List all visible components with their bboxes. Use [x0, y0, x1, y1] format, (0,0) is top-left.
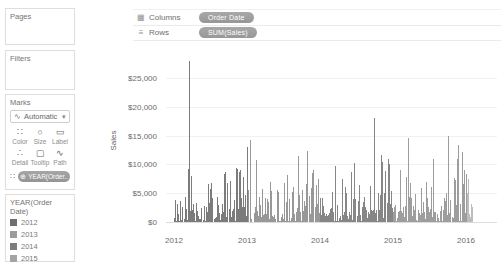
- columns-shelf-label: Columns: [149, 13, 193, 22]
- legend-swatch-2012: [10, 219, 17, 226]
- tableau-worksheet: Pages Filters Marks ∿ Automatic ▾ ∷ Colo…: [0, 0, 501, 267]
- rows-shelf-label: Rows: [149, 28, 193, 37]
- marks-card: Marks ∿ Automatic ▾ ∷ Color ○ Size ▭ Lab…: [5, 94, 75, 190]
- detail-button[interactable]: ∴ Detail: [10, 148, 30, 166]
- y-tick-0: $0: [113, 218, 157, 227]
- x-tick-2016: 2016: [452, 236, 480, 245]
- y-tick-5000: $5,000: [113, 189, 157, 198]
- rows-shelf[interactable]: ≡ Rows SUM(Sales): [133, 25, 501, 41]
- legend-item-2012[interactable]: 2012: [10, 217, 70, 228]
- columns-icon: ▦: [136, 13, 146, 22]
- filters-shelf-title: Filters: [10, 54, 70, 63]
- plus-circle-icon: ⊕: [20, 173, 26, 181]
- legend-item-2013[interactable]: 2013: [10, 229, 70, 240]
- size-button[interactable]: ○ Size: [30, 127, 50, 145]
- marks-card-title: Marks: [10, 98, 70, 107]
- x-tick-2014: 2014: [306, 236, 334, 245]
- tooltip-button[interactable]: ▢ Tooltip: [30, 148, 50, 166]
- sum-sales-pill[interactable]: SUM(Sales): [199, 27, 257, 38]
- year-order-date-pill-label: YEAR(Order..: [28, 173, 68, 180]
- color-target-icon: ∷: [10, 172, 15, 181]
- label-button-label: Label: [50, 138, 70, 145]
- tooltip-icon: ▢: [30, 148, 50, 158]
- marks-button-grid: ∷ Color ○ Size ▭ Label ∴ Detail ▢ Toolti…: [10, 127, 70, 166]
- marks-color-shelf: ∷ ⊕ YEAR(Order..: [10, 171, 70, 182]
- x-tick-2013: 2013: [233, 236, 261, 245]
- legend-swatch-2013: [10, 231, 17, 238]
- legend-label-2013: 2013: [21, 230, 38, 239]
- year-order-date-pill[interactable]: ⊕ YEAR(Order..: [18, 171, 70, 182]
- y-tick-20000: $20,000: [113, 103, 157, 112]
- sales-bar-chart[interactable]: [166, 52, 501, 226]
- pages-shelf[interactable]: Pages: [5, 8, 75, 45]
- x-tick-2012: 2012: [160, 236, 188, 245]
- color-legend-card: YEAR(Order Date) 2012 2013 2014 2015: [5, 194, 75, 262]
- columns-shelf[interactable]: ▦ Columns Order Date: [133, 9, 501, 26]
- legend-swatch-2014: [10, 243, 17, 250]
- color-button[interactable]: ∷ Color: [10, 127, 30, 145]
- rows-icon: ≡: [136, 28, 146, 37]
- legend-label-2014: 2014: [21, 242, 38, 251]
- chevron-down-icon: ▾: [62, 113, 66, 121]
- detail-icon: ∴: [10, 148, 30, 158]
- size-icon: ○: [30, 127, 50, 137]
- line-chart-icon: ∿: [14, 112, 21, 121]
- pages-shelf-title: Pages: [10, 12, 70, 21]
- legend-item-2014[interactable]: 2014: [10, 241, 70, 252]
- legend-item-2015[interactable]: 2015: [10, 253, 70, 264]
- path-button[interactable]: ∿ Path: [50, 148, 70, 166]
- label-button[interactable]: ▭ Label: [50, 127, 70, 145]
- y-tick-25000: $25,000: [113, 74, 157, 83]
- mark-type-dropdown[interactable]: ∿ Automatic ▾: [10, 110, 70, 123]
- y-tick-10000: $10,000: [113, 160, 157, 169]
- x-tick-2015: 2015: [379, 236, 407, 245]
- path-icon: ∿: [50, 148, 70, 158]
- detail-button-label: Detail: [10, 159, 30, 166]
- path-button-label: Path: [50, 159, 70, 166]
- color-button-label: Color: [10, 138, 30, 145]
- legend-title: YEAR(Order Date): [10, 198, 70, 216]
- legend-label-2012: 2012: [21, 218, 38, 227]
- filters-shelf[interactable]: Filters: [5, 50, 75, 90]
- size-button-label: Size: [30, 138, 50, 145]
- tooltip-button-label: Tooltip: [30, 159, 50, 166]
- mark-type-value: Automatic: [24, 112, 57, 121]
- label-icon: ▭: [50, 127, 70, 137]
- y-tick-15000: $15,000: [113, 132, 157, 141]
- legend-swatch-2015: [10, 255, 17, 262]
- color-icon: ∷: [10, 127, 30, 137]
- order-date-pill[interactable]: Order Date: [199, 12, 254, 23]
- legend-label-2015: 2015: [21, 254, 38, 263]
